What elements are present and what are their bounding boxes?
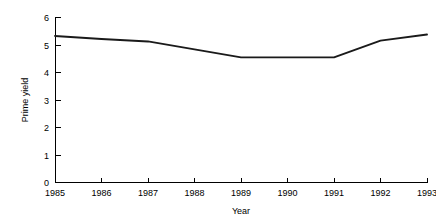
x-tick-label-1991: 1991 <box>324 188 344 198</box>
line-chart-plot: 6 5 4 3 2 1 0 1985 1986 1987 1988 1989 1 <box>0 0 436 224</box>
chart-figure: 6 5 4 3 2 1 0 1985 1986 1987 1988 1989 1 <box>0 0 436 224</box>
y-tick-label-2: 2 <box>44 123 49 133</box>
y-tick-label-3: 3 <box>44 96 49 106</box>
y-tick-label-1: 1 <box>44 151 49 161</box>
x-axis-title: Year <box>232 206 250 216</box>
x-tick-label-1987: 1987 <box>138 188 158 198</box>
y-tick-labels: 6 5 4 3 2 1 0 <box>44 13 49 188</box>
y-tick-label-5: 5 <box>44 41 49 51</box>
x-tick-label-1990: 1990 <box>277 188 297 198</box>
x-tick-label-1985: 1985 <box>45 188 65 198</box>
y-axis-title: Prime yield <box>20 78 30 123</box>
y-tick-marks <box>56 18 61 156</box>
data-series-prime-yield <box>55 35 427 58</box>
x-tick-marks <box>102 178 428 183</box>
x-tick-labels: 1985 1986 1987 1988 1989 1990 1991 1992 … <box>45 188 436 198</box>
x-tick-label-1986: 1986 <box>91 188 111 198</box>
y-tick-label-6: 6 <box>44 13 49 23</box>
y-tick-label-4: 4 <box>44 68 49 78</box>
x-tick-label-1992: 1992 <box>370 188 390 198</box>
y-tick-label-0: 0 <box>44 178 49 188</box>
x-tick-label-1988: 1988 <box>184 188 204 198</box>
x-tick-label-1989: 1989 <box>231 188 251 198</box>
x-tick-label-1993: 1993 <box>417 188 436 198</box>
